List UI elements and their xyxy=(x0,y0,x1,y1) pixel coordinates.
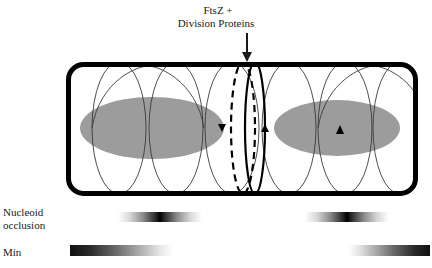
nucleoid-occlusion-right-bar xyxy=(305,212,389,222)
min-bars xyxy=(70,245,430,256)
nucleoid-occlusion-bars xyxy=(118,212,389,222)
bacterial-cell-division-diagram: FtsZ + Division Proteins Nucleoid occlus… xyxy=(0,0,432,268)
right-nucleoid xyxy=(274,100,400,156)
min-right-bar xyxy=(348,245,430,256)
nucleoid-occlusion-left-bar xyxy=(118,212,202,222)
ftsz-arrow xyxy=(242,33,252,62)
min-left-bar xyxy=(70,245,173,256)
nucleoid-group xyxy=(80,97,400,159)
left-nucleoid xyxy=(80,97,224,159)
zring-group xyxy=(231,62,265,194)
diagram-canvas xyxy=(0,0,432,268)
ftsz-arrow-head-icon xyxy=(242,52,252,62)
